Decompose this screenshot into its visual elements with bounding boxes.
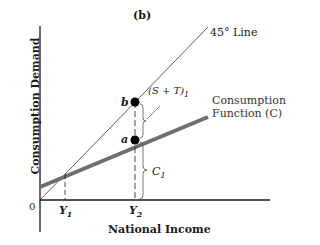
y2-text: Y xyxy=(129,204,137,217)
x-axis-label: National Income xyxy=(108,224,211,235)
y-axis-label: Consumption Demand xyxy=(30,65,41,175)
x-tick-y1: Y1 xyxy=(59,205,72,218)
panel-label: (b) xyxy=(133,10,151,21)
saving-taxes-text: (S + T) xyxy=(148,85,184,96)
saving-taxes-label: (S + T)1 xyxy=(148,86,189,99)
point-b-label: b xyxy=(121,97,129,108)
consumption-c1-label: C1 xyxy=(152,166,166,180)
consumption-label-line2: Function (C) xyxy=(212,108,282,119)
point-b xyxy=(131,98,140,107)
y1-text: Y xyxy=(59,204,67,217)
x-tick-y2: Y2 xyxy=(129,205,142,218)
y2-sub: 2 xyxy=(137,209,143,219)
origin-label: 0 xyxy=(29,202,35,212)
brace-saving-taxes xyxy=(140,104,146,138)
saving-taxes-sub: 1 xyxy=(184,90,189,99)
line-45-label: 45° Line xyxy=(210,27,257,38)
point-a xyxy=(131,136,140,145)
brace-consumption xyxy=(140,142,147,199)
point-a-label: a xyxy=(121,134,128,145)
brace-saving-taxes-leader xyxy=(147,106,160,119)
consumption-label-line1: Consumption xyxy=(212,95,286,106)
c1-sub: 1 xyxy=(160,171,165,180)
y1-sub: 1 xyxy=(67,209,73,219)
